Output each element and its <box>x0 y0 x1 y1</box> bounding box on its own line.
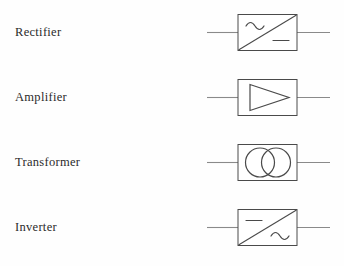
amplifier-symbol <box>200 65 340 130</box>
symbol-row-amplifier: Amplifier <box>0 65 344 130</box>
symbol-label-rectifier: Rectifier <box>15 26 61 40</box>
rectifier-symbol <box>200 0 340 65</box>
symbols-sheet: Rectifier Amplifier Transformer <box>0 0 344 266</box>
transformer-symbol <box>200 130 340 195</box>
inverter-symbol <box>200 195 340 260</box>
symbol-row-inverter: Inverter <box>0 195 344 260</box>
symbol-label-amplifier: Amplifier <box>15 91 67 105</box>
symbol-row-rectifier: Rectifier <box>0 0 344 65</box>
symbol-label-inverter: Inverter <box>15 221 57 235</box>
symbol-label-transformer: Transformer <box>15 156 80 170</box>
symbol-row-transformer: Transformer <box>0 130 344 195</box>
